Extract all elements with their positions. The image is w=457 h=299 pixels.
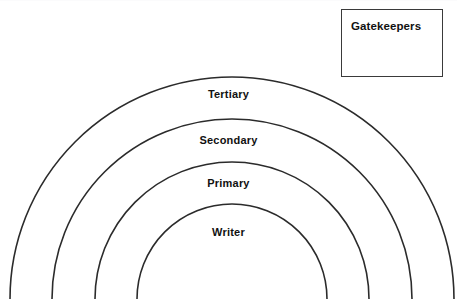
arc-writer	[137, 204, 327, 299]
ring-label-tertiary: Tertiary	[0, 88, 457, 100]
gatekeepers-box: Gatekeepers	[341, 9, 443, 77]
ring-label-secondary: Secondary	[0, 134, 457, 146]
ring-label-writer: Writer	[0, 226, 457, 238]
arc-secondary	[52, 119, 412, 299]
gatekeepers-label: Gatekeepers	[351, 20, 421, 32]
diagram-canvas: Tertiary Secondary Primary Writer Gateke…	[0, 0, 457, 299]
ring-label-primary: Primary	[0, 177, 457, 189]
